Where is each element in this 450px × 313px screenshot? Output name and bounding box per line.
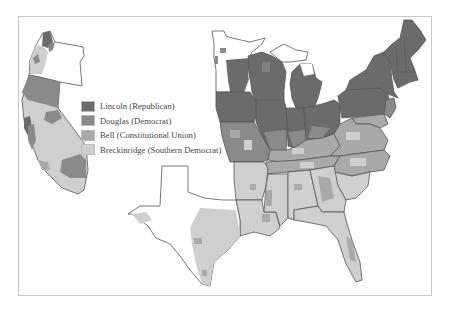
florida	[294, 206, 362, 282]
legend-item-bell: Bell (Constitutional Union)	[81, 128, 221, 143]
legend-label: Bell (Constitutional Union)	[100, 130, 196, 140]
legend-item-breckinridge: Breckinridge (Southern Democrat)	[81, 143, 221, 158]
swatch-douglas	[81, 115, 95, 126]
swatch-lincoln	[81, 101, 95, 112]
legend-item-douglas: Douglas (Democrat)	[81, 114, 221, 129]
michigan-lower	[290, 64, 322, 108]
iowa	[216, 92, 258, 122]
map-legend: Lincoln (Republican) Douglas (Democrat) …	[81, 99, 221, 157]
swatch-bell	[81, 130, 95, 141]
swatch-breckinridge	[81, 144, 95, 155]
arkansas	[234, 162, 268, 200]
election-map	[0, 0, 450, 313]
legend-item-lincoln: Lincoln (Republican)	[81, 99, 221, 114]
legend-label: Lincoln (Republican)	[100, 101, 175, 111]
texas	[128, 166, 240, 286]
california	[22, 75, 88, 194]
pennsylvania	[338, 88, 390, 118]
legend-label: Douglas (Democrat)	[100, 116, 171, 126]
legend-label: Breckinridge (Southern Democrat)	[100, 145, 221, 155]
